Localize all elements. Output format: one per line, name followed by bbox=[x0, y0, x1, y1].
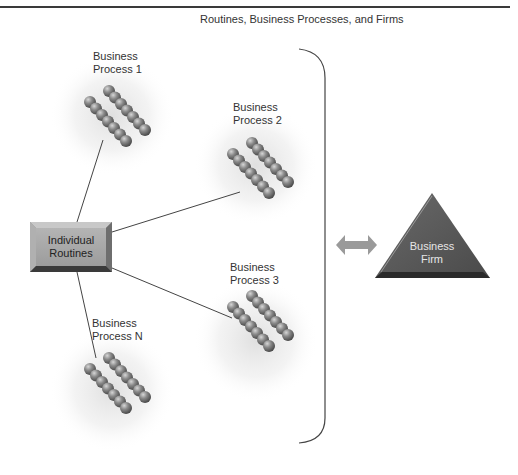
connector-bp3 bbox=[112, 268, 232, 318]
bpn-label: Business Process N bbox=[92, 317, 143, 343]
bp1-label: Business Process 1 bbox=[93, 50, 142, 76]
double-arrow-icon bbox=[336, 235, 377, 255]
bp3-label: Business Process 3 bbox=[230, 261, 279, 287]
business-firm-label: Business Firm bbox=[402, 240, 462, 266]
individual-routines-label: Individual Routines bbox=[30, 222, 112, 272]
bracket bbox=[299, 49, 325, 443]
bp2-label: Business Process 2 bbox=[233, 101, 282, 127]
